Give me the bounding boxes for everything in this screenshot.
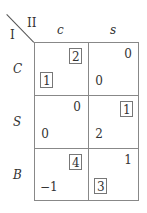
row-strategy-C: C [13,63,22,75]
column-player-payoff: 2 [69,48,82,64]
cell-B-s: 1 3 [88,148,139,201]
row-player-payoff: 1 [40,72,53,88]
cell-C-s: 0 0 [88,42,139,95]
row-player-payoff: 0 [40,128,50,141]
row-player-payoff: 0 [94,75,104,88]
row-strategy-B: B [13,169,22,181]
column-player-payoff: 1 [120,101,133,117]
cell-S-s: 1 2 [88,95,139,148]
row-player-payoff: 3 [94,178,107,194]
row-player-payoff: −1 [40,181,58,194]
column-player-payoff: 1 [123,154,133,167]
row-strategy-S: S [13,116,21,128]
column-player-payoff: 0 [123,48,133,61]
cell-B-c: 4 −1 [34,148,88,201]
row-player-payoff: 2 [94,128,104,141]
column-strategy-s: s [110,24,116,36]
cell-C-c: 2 1 [34,42,88,95]
column-player-payoff: 0 [72,101,82,114]
row-player-label: I [10,29,15,41]
column-strategy-c: c [57,24,64,36]
column-player-payoff: 4 [69,154,82,170]
column-player-label: II [27,17,36,29]
cell-S-c: 0 0 [34,95,88,148]
